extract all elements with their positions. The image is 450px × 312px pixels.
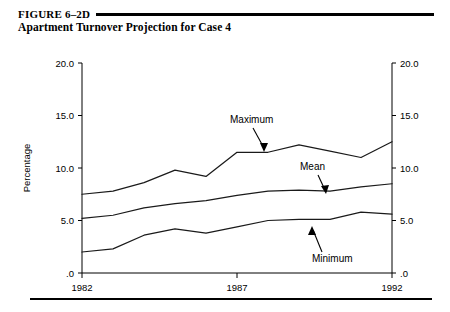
- y-axis-left-ticks: .05.010.015.020.0: [56, 58, 83, 279]
- footer-rule-divider: [30, 298, 432, 301]
- annotation-arrow-minimum-head: [308, 226, 316, 235]
- y-axis-right-tick-label: 10.0: [400, 163, 419, 174]
- series-line-maximum: [82, 142, 392, 195]
- x-axis-tick-label: 1987: [226, 282, 247, 293]
- series-line-mean: [82, 184, 392, 219]
- y-axis-right-tick-label: .0: [400, 268, 408, 279]
- y-axis-title: Percentage: [21, 144, 32, 193]
- annotation-minimum: Minimum: [308, 226, 353, 264]
- annotation-label-maximum: Maximum: [230, 114, 273, 125]
- header-rule-divider: [96, 13, 434, 16]
- x-axis-tick-label: 1982: [71, 282, 92, 293]
- figure-container: FIGURE 6–2D Apartment Turnover Projectio…: [0, 0, 450, 312]
- chart-plot-area: .05.010.015.020.0 .05.010.015.020.0 1982…: [0, 40, 450, 295]
- data-series-group: [82, 142, 392, 252]
- y-axis-right-tick-label: 5.0: [400, 215, 413, 226]
- y-axis-left-tick-label: 5.0: [61, 215, 74, 226]
- annotation-label-mean: Mean: [300, 161, 325, 172]
- figure-subtitle: Apartment Turnover Projection for Case 4: [18, 22, 231, 34]
- annotation-maximum: Maximum: [230, 114, 273, 152]
- y-axis-left-tick-label: 15.0: [56, 110, 75, 121]
- annotation-label-minimum: Minimum: [312, 253, 353, 264]
- y-axis-left-tick-label: 10.0: [56, 163, 75, 174]
- series-line-minimum: [82, 212, 392, 252]
- line-chart-svg: .05.010.015.020.0 .05.010.015.020.0 1982…: [0, 40, 450, 295]
- y-axis-left-tick-label: 20.0: [56, 58, 75, 69]
- y-axis-left-tick-label: .0: [66, 268, 74, 279]
- x-axis-tick-label: 1992: [381, 282, 402, 293]
- y-axis-right-tick-label: 20.0: [400, 58, 419, 69]
- x-axis-ticks: 198219871992: [71, 273, 402, 293]
- annotation-arrow-maximum-head: [260, 143, 268, 152]
- figure-number-label: FIGURE 6–2D: [18, 9, 90, 20]
- y-axis-right-tick-label: 15.0: [400, 110, 419, 121]
- annotation-arrow-mean-head: [321, 185, 329, 194]
- annotation-mean: Mean: [300, 161, 329, 194]
- figure-header: FIGURE 6–2D: [18, 7, 434, 21]
- y-axis-right-ticks: .05.010.015.020.0: [392, 58, 419, 279]
